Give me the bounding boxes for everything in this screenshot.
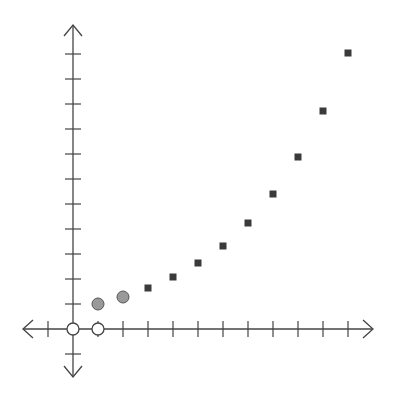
axis-ticks (48, 54, 348, 354)
open-circle-marker (92, 323, 104, 335)
square-marker (220, 243, 227, 250)
data-points (67, 50, 352, 336)
square-marker (245, 220, 252, 227)
open-circle-marker (67, 323, 79, 335)
square-marker (145, 285, 152, 292)
square-marker (320, 108, 327, 115)
scatter-chart (0, 0, 395, 404)
square-marker (195, 260, 202, 267)
square-marker (295, 154, 302, 161)
filled-circle-marker (117, 291, 129, 303)
filled-circle-marker (92, 298, 104, 310)
square-marker (170, 274, 177, 281)
square-marker (270, 191, 277, 198)
square-marker (345, 50, 352, 57)
